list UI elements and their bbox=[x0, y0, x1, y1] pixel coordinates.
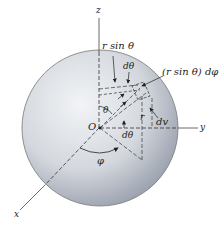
sphere-diagram bbox=[0, 0, 224, 226]
r-label: r bbox=[140, 113, 144, 122]
r-sin-theta-dphi-label: (r sin θ) dφ bbox=[162, 67, 218, 77]
d-theta-bottom-label: dθ bbox=[122, 131, 133, 140]
d-theta-top-label: dθ bbox=[123, 62, 134, 71]
origin-point bbox=[99, 127, 102, 130]
z-axis-label: z bbox=[96, 6, 101, 15]
origin-label: O bbox=[88, 122, 96, 132]
phi-label: φ bbox=[97, 156, 104, 166]
y-axis-label: y bbox=[200, 123, 205, 132]
dv-label: dv bbox=[156, 117, 168, 127]
x-axis-label: x bbox=[14, 210, 19, 219]
r-sin-theta-label: r sin θ bbox=[102, 41, 134, 51]
theta-label: θ bbox=[103, 106, 108, 115]
